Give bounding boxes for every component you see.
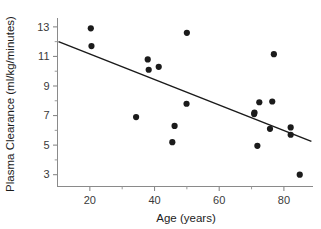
data-point <box>288 124 294 130</box>
x-tick-label: 40 <box>148 194 160 206</box>
y-axis-title-group: Plasma Clearance (ml/kg/minutes) <box>4 16 16 192</box>
y-axis-ticks <box>53 27 58 175</box>
x-tick-label: 60 <box>213 194 225 206</box>
x-tick-label: 20 <box>84 194 96 206</box>
y-tick-label: 7 <box>43 109 49 121</box>
x-axis-tick-labels: 20406080 <box>84 194 290 206</box>
scatter-plot: Plasma Clearance (ml/kg/minutes) Age (ye… <box>0 0 321 229</box>
data-point <box>183 101 189 107</box>
data-point <box>133 114 139 120</box>
data-point <box>297 172 303 178</box>
data-point <box>156 64 162 70</box>
y-tick-label: 3 <box>43 168 49 180</box>
data-point <box>269 98 275 104</box>
data-point <box>254 143 260 149</box>
y-tick-label: 11 <box>38 50 49 62</box>
data-points-group <box>88 25 303 178</box>
data-point <box>88 25 94 31</box>
data-point <box>169 139 175 145</box>
data-point <box>267 126 273 132</box>
y-axis-title: Plasma Clearance (ml/kg/minutes) <box>4 16 16 192</box>
figure-container: Plasma Clearance (ml/kg/minutes) Age (ye… <box>0 0 321 229</box>
data-point <box>88 43 94 49</box>
data-point <box>146 67 152 73</box>
y-tick-label: 9 <box>43 80 49 92</box>
data-point <box>184 30 190 36</box>
y-tick-label: 5 <box>43 139 49 151</box>
data-point <box>271 51 277 57</box>
data-point <box>256 99 262 105</box>
data-point <box>145 56 151 62</box>
data-point <box>288 132 294 138</box>
data-point <box>251 109 257 115</box>
x-tick-label: 80 <box>278 194 290 206</box>
x-axis-ticks <box>90 187 284 192</box>
x-axis-title: Age (years) <box>156 212 216 224</box>
y-tick-label: 13 <box>37 21 49 33</box>
data-point <box>171 123 177 129</box>
y-axis-tick-labels: 35791113 <box>37 21 49 181</box>
